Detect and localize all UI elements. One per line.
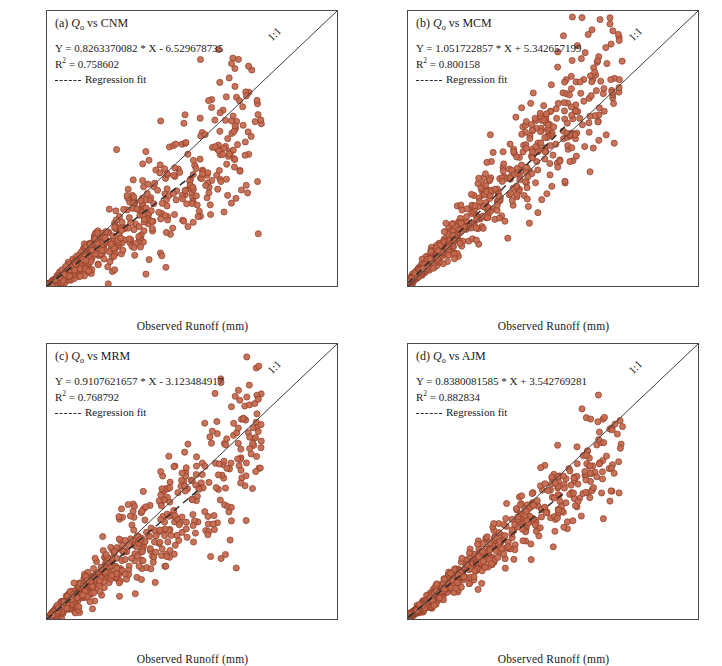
data-point	[159, 253, 165, 259]
data-point	[208, 104, 214, 110]
data-point	[581, 98, 587, 104]
data-point	[451, 256, 457, 262]
data-point	[184, 534, 190, 540]
data-point	[252, 435, 258, 441]
data-point	[569, 145, 575, 151]
panel-c-x-tick-mark	[279, 619, 280, 620]
data-point	[159, 486, 165, 492]
data-point	[616, 77, 622, 83]
data-point	[511, 556, 517, 562]
data-point	[138, 576, 144, 582]
panel-c-x-tick-mark	[105, 619, 106, 620]
data-point	[607, 498, 613, 504]
panel-d-title: (d) Qo vs AJM	[416, 349, 587, 367]
panel-a-legend-label: Regression fit	[85, 72, 146, 87]
panel-d-x-tick-mark	[495, 619, 496, 620]
data-point	[475, 586, 481, 592]
data-point	[221, 209, 227, 215]
data-point	[590, 485, 596, 491]
data-point	[190, 157, 196, 163]
data-point	[228, 60, 234, 66]
panel-a-y-tick-mark	[46, 203, 47, 204]
data-point	[224, 161, 230, 167]
data-point	[535, 210, 541, 216]
panel-a-x-tick-mark	[47, 286, 48, 287]
data-point	[193, 454, 199, 460]
data-point	[231, 164, 237, 170]
data-point	[595, 392, 601, 398]
data-point	[238, 446, 244, 452]
data-point	[484, 215, 490, 221]
data-point	[125, 502, 131, 508]
data-point	[243, 93, 249, 99]
data-point	[608, 77, 614, 83]
data-point	[554, 115, 560, 121]
data-point	[94, 230, 100, 236]
data-point	[205, 532, 211, 538]
panel-c-title-prefix: (c)	[55, 349, 68, 363]
data-point	[595, 58, 601, 64]
data-point	[161, 497, 167, 503]
data-point	[120, 247, 126, 253]
data-point	[231, 128, 237, 134]
panel-a-y-tick-mark	[46, 38, 47, 39]
data-point	[197, 156, 203, 162]
data-point	[258, 445, 264, 451]
panel-d-y-tick-mark	[407, 481, 408, 482]
data-point	[480, 225, 486, 231]
panel-b: Estimated Runoff (mm) 1:1 (b) Qo vs MCM …	[361, 0, 722, 333]
data-point	[240, 416, 246, 422]
panel-b-x-tick-mark	[524, 286, 525, 287]
data-point	[256, 363, 262, 369]
data-point	[171, 172, 177, 178]
data-point	[564, 519, 570, 525]
data-point	[148, 566, 154, 572]
data-point	[537, 525, 543, 531]
data-point	[611, 470, 617, 476]
data-point	[237, 397, 243, 403]
data-point	[555, 507, 561, 513]
data-point	[441, 229, 447, 235]
data-point	[587, 113, 593, 119]
data-point	[529, 149, 535, 155]
data-point	[64, 605, 70, 611]
data-point	[167, 485, 173, 491]
data-point	[457, 240, 463, 246]
data-point	[535, 167, 541, 173]
panel-a-r2-exp: 2	[62, 56, 66, 65]
panel-b-y-tick-mark	[407, 38, 408, 39]
panel-b-x-tick-mark	[611, 286, 612, 287]
data-point	[253, 468, 259, 474]
data-point	[514, 192, 520, 198]
data-point	[583, 477, 589, 483]
panel-b-equation: Y = 1.051722857 * X + 5.342657199	[416, 41, 581, 56]
data-point	[490, 149, 496, 155]
data-point	[555, 442, 561, 448]
data-point	[482, 171, 488, 177]
data-point	[243, 473, 249, 479]
data-point	[510, 149, 516, 155]
data-point	[113, 208, 119, 214]
data-point	[505, 544, 511, 550]
panel-d-x-tick-mark	[669, 619, 670, 620]
data-point	[582, 468, 588, 474]
panel-c-title: (c) Qo vs MRM	[55, 349, 223, 367]
panel-c-legend: Regression fit	[55, 405, 223, 420]
data-point	[97, 588, 103, 594]
data-point	[170, 225, 176, 231]
data-point	[163, 229, 169, 235]
panel-a-title-prefix: (a)	[55, 16, 68, 30]
data-point	[488, 561, 494, 567]
panel-c-x-axis-title: Observed Runoff (mm)	[0, 653, 361, 665]
panel-b-r2: R2 = 0.800158	[416, 56, 581, 71]
panel-a-y-tick-mark	[46, 66, 47, 67]
data-point	[190, 184, 196, 190]
data-point	[482, 564, 488, 570]
panel-c-y-tick-mark	[46, 454, 47, 455]
data-point	[573, 153, 579, 159]
data-point	[235, 456, 241, 462]
data-point	[89, 247, 95, 253]
data-point	[111, 253, 117, 259]
panel-b-x-tick-mark	[582, 286, 583, 287]
data-point	[583, 489, 589, 495]
